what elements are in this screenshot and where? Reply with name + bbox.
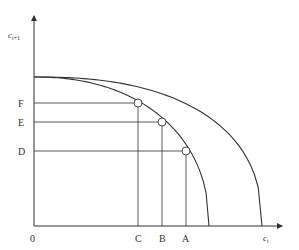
diagram: ct+1 ct 0 F E D C B A bbox=[0, 0, 299, 250]
y-axis-label: ct+1 bbox=[8, 30, 20, 41]
x-axis-label: ct bbox=[263, 233, 269, 244]
outer-frontier-curve bbox=[34, 77, 262, 226]
y-label-D: D bbox=[18, 146, 25, 157]
tangent-point-C bbox=[134, 99, 142, 107]
x-label-A: A bbox=[182, 233, 190, 244]
y-label-E: E bbox=[18, 117, 24, 128]
x-label-C: C bbox=[135, 233, 142, 244]
origin-label: 0 bbox=[30, 233, 35, 244]
tangent-point-B bbox=[158, 118, 166, 126]
y-label-F: F bbox=[18, 98, 24, 109]
x-label-B: B bbox=[159, 233, 166, 244]
tangent-point-A bbox=[182, 147, 190, 155]
